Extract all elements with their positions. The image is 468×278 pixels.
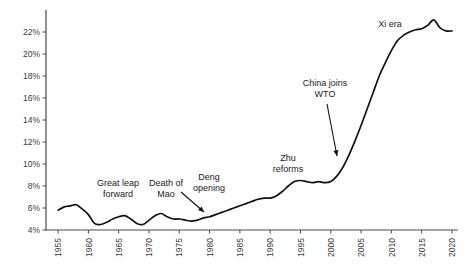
zhu-reforms-annotation-line1: Zhu (280, 153, 296, 163)
y-axis-tick-label: 22% (23, 27, 40, 37)
y-axis-tick-label: 18% (23, 71, 40, 81)
line-chart: 4%6%8%10%12%14%16%18%20%22% 195519601965… (0, 0, 468, 278)
x-axis-tick-label: 2005 (356, 238, 366, 257)
x-axis-tick-label: 1965 (114, 238, 124, 257)
x-axis-tick-label: 1960 (84, 238, 94, 257)
y-axis-tick-label: 4% (28, 225, 41, 235)
y-axis-tick-label: 12% (23, 137, 40, 147)
x-axis-tick-label: 1955 (53, 238, 63, 257)
chart-background (0, 0, 468, 278)
x-axis-tick-label: 1995 (296, 238, 306, 257)
great-leap-forward-annotation-line1: Great leap (97, 178, 139, 188)
zhu-reforms-annotation-line2: reforms (273, 164, 304, 174)
y-axis-tick-label: 8% (28, 181, 41, 191)
y-axis-tick-label: 20% (23, 49, 40, 59)
x-axis-tick-label: 2020 (447, 238, 457, 257)
china-joins-wto-annotation-line2: WTO (315, 89, 336, 99)
x-axis-tick-label: 1970 (144, 238, 154, 257)
y-axis-tick-label: 16% (23, 93, 40, 103)
deng-opening-annotation-line1: Deng (198, 172, 220, 182)
x-axis-tick-label: 2010 (387, 238, 397, 257)
great-leap-forward-annotation-line2: forward (103, 189, 133, 199)
death-of-mao-annotation-line1: Death of (149, 178, 184, 188)
x-axis-tick-label: 2015 (417, 238, 427, 257)
x-axis-tick-label: 1985 (235, 238, 245, 257)
y-axis-tick-label: 14% (23, 115, 40, 125)
x-axis-tick-label: 1980 (205, 238, 215, 257)
y-axis-tick-label: 10% (23, 159, 40, 169)
chart-container: 4%6%8%10%12%14%16%18%20%22% 195519601965… (0, 0, 468, 278)
china-joins-wto-annotation-line1: China joins (303, 78, 348, 88)
xi-era-annotation-line1: Xi era (378, 19, 402, 29)
deng-opening-annotation-line2: opening (193, 183, 225, 193)
x-axis-tick-label: 1990 (265, 238, 275, 257)
x-axis-tick-label: 2000 (326, 238, 336, 257)
x-axis-tick-label: 1975 (174, 238, 184, 257)
y-axis-tick-label: 6% (28, 203, 41, 213)
death-of-mao-annotation-line2: Mao (157, 189, 175, 199)
